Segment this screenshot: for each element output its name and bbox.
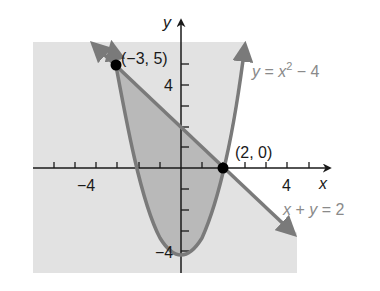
x-tick-label-4: 4 — [282, 177, 291, 194]
graph-figure: (−3, 5) (2, 0) x y −4 4 4 −4 y = x2 − 4 … — [0, 0, 380, 291]
line-equation-label: x + y = 2 — [282, 201, 344, 218]
intersection-point-neg3-5 — [111, 60, 122, 71]
y-tick-label-neg4: −4 — [155, 244, 173, 261]
point-label-neg3-5: (−3, 5) — [121, 50, 168, 67]
parabola-equation-label: y = x2 − 4 — [251, 60, 320, 80]
intersection-point-2-0 — [218, 163, 229, 174]
y-tick-label-4: 4 — [164, 77, 173, 94]
x-axis-label: x — [318, 175, 328, 192]
point-label-2-0: (2, 0) — [235, 144, 272, 161]
x-tick-label-neg4: −4 — [77, 177, 95, 194]
y-axis-label: y — [162, 14, 172, 31]
